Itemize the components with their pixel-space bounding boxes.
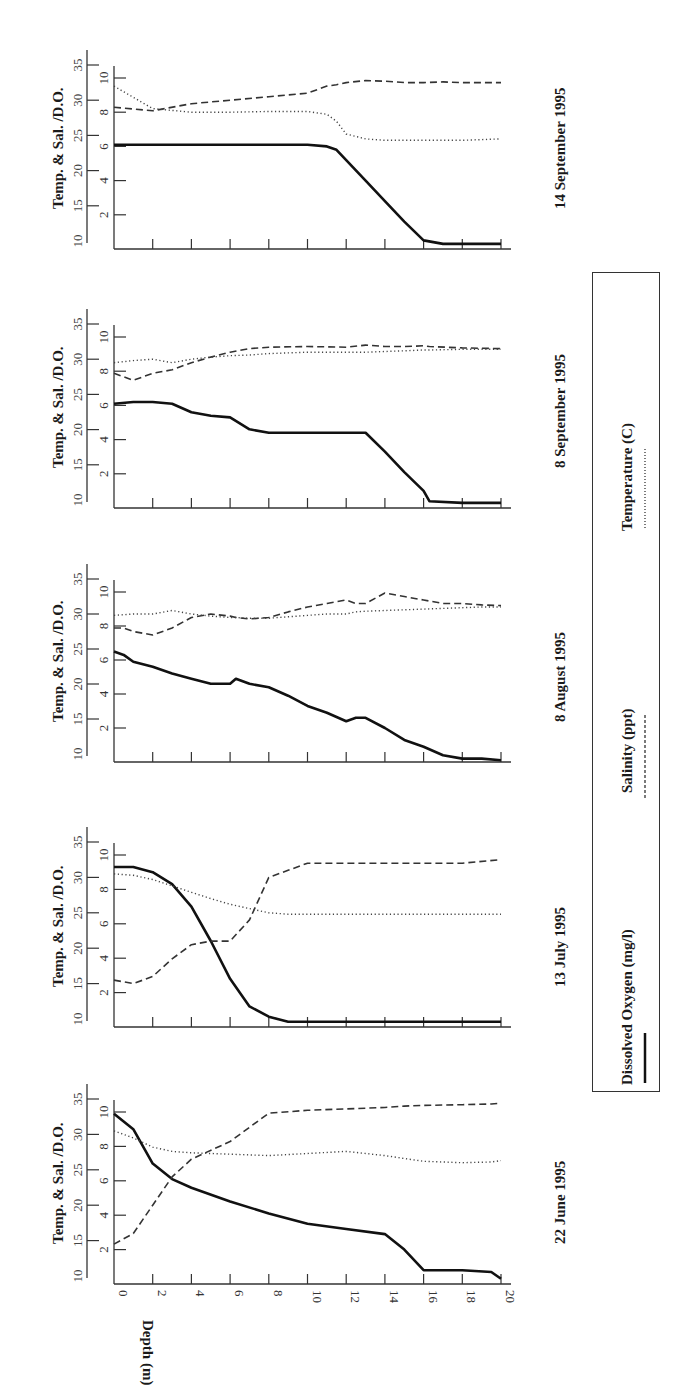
do-line (114, 402, 501, 503)
do-line (114, 145, 501, 244)
legend: Dissolved Oxygen (mg/l) Salinity (ppt) T… (592, 272, 660, 1092)
svg-text:35: 35 (70, 836, 85, 849)
y-axis-title: Temp. & Sal. /D.O. (50, 1122, 67, 1244)
svg-text:35: 35 (70, 59, 85, 72)
svg-text:30: 30 (70, 353, 85, 366)
panel-date-label: 13 July 1995 (552, 907, 569, 987)
svg-text:10: 10 (70, 1270, 85, 1283)
do-line (114, 652, 501, 761)
svg-text:15: 15 (70, 458, 85, 471)
svg-text:4: 4 (96, 177, 111, 184)
depth-tick-label: 10 (310, 1290, 325, 1303)
svg-text:4: 4 (96, 436, 111, 443)
svg-text:35: 35 (70, 318, 85, 331)
temperature-line (114, 86, 501, 140)
svg-text:8: 8 (96, 1143, 111, 1150)
svg-text:10: 10 (70, 235, 85, 248)
depth-tick-label: 12 (348, 1290, 363, 1303)
panel-date-label: 8 September 1995 (552, 354, 569, 468)
svg-text:35: 35 (70, 1093, 85, 1106)
depth-tick-label: 14 (387, 1290, 402, 1304)
temperature-line (114, 349, 501, 362)
svg-text:4: 4 (96, 954, 111, 961)
depth-tick-label: 4 (193, 1290, 208, 1297)
svg-text:2: 2 (96, 1246, 111, 1253)
legend-label-salinity: Salinity (ppt) (619, 708, 636, 793)
svg-text:2: 2 (96, 725, 111, 732)
svg-text:30: 30 (70, 608, 85, 621)
svg-text:20: 20 (70, 678, 85, 691)
depth-tick-label: 16 (426, 1290, 441, 1304)
svg-text:10: 10 (96, 849, 111, 862)
panel-1: 246810101520253035 (70, 1084, 511, 1284)
svg-text:25: 25 (70, 1163, 85, 1176)
do-line (114, 867, 501, 1022)
panel-date-label: 8 August 1995 (552, 632, 569, 722)
svg-text:15: 15 (70, 977, 85, 990)
salinity-line (114, 81, 501, 111)
svg-text:8: 8 (96, 109, 111, 116)
svg-text:20: 20 (70, 1199, 85, 1212)
svg-text:4: 4 (96, 690, 111, 697)
svg-text:4: 4 (96, 1211, 111, 1218)
panel-4: 246810101520253035 (70, 309, 511, 508)
svg-text:6: 6 (96, 143, 111, 150)
svg-text:25: 25 (70, 129, 85, 142)
panel-date-label: 14 September 1995 (552, 88, 569, 209)
svg-text:25: 25 (70, 643, 85, 656)
svg-text:10: 10 (70, 1013, 85, 1026)
panel-3: 246810101520253035 (70, 564, 511, 762)
svg-text:25: 25 (70, 906, 85, 919)
svg-text:6: 6 (96, 920, 111, 927)
temperature-line (114, 607, 501, 618)
panel-2: 246810101520253035 (70, 827, 511, 1027)
temperature-line (114, 1131, 501, 1163)
panel-5: 246810101520253035 (70, 50, 511, 249)
temperature-line (114, 874, 501, 914)
y-axis-title: Temp. & Sal. /D.O. (50, 346, 67, 468)
svg-text:2: 2 (96, 212, 111, 219)
svg-text:8: 8 (96, 368, 111, 375)
svg-text:20: 20 (70, 423, 85, 436)
svg-text:10: 10 (70, 494, 85, 507)
do-line (114, 1114, 501, 1279)
depth-tick-label: 6 (232, 1290, 247, 1297)
depth-tick-label: 2 (155, 1290, 170, 1297)
svg-text:15: 15 (70, 1234, 85, 1247)
svg-text:10: 10 (96, 331, 111, 344)
depth-tick-label: 18 (464, 1290, 479, 1303)
svg-text:10: 10 (96, 586, 111, 599)
depth-tick-label: 0 (116, 1290, 131, 1297)
svg-text:30: 30 (70, 871, 85, 884)
depth-tick-label: 20 (503, 1290, 518, 1303)
legend-label-do: Dissolved Oxygen (mg/l) (619, 929, 636, 1085)
panel-date-label: 22 June 1995 (552, 1161, 569, 1244)
svg-text:15: 15 (70, 199, 85, 212)
salinity-line (114, 345, 501, 380)
svg-text:10: 10 (70, 748, 85, 761)
depth-tick-label: 8 (271, 1290, 286, 1297)
svg-text:6: 6 (96, 402, 111, 409)
depth-axis-label: Depth (m) (139, 1320, 156, 1385)
svg-text:2: 2 (96, 989, 111, 996)
svg-text:20: 20 (70, 164, 85, 177)
svg-text:20: 20 (70, 942, 85, 955)
salinity-line (114, 593, 501, 635)
svg-text:6: 6 (96, 656, 111, 663)
legend-label-temperature: Temperature (C) (619, 423, 636, 531)
y-axis-title: Temp. & Sal. /D.O. (50, 87, 67, 209)
svg-text:30: 30 (70, 94, 85, 107)
y-axis-title: Temp. & Sal. /D.O. (50, 600, 67, 722)
svg-text:25: 25 (70, 388, 85, 401)
svg-text:8: 8 (96, 623, 111, 630)
salinity-line (114, 860, 501, 984)
svg-text:30: 30 (70, 1128, 85, 1141)
svg-text:35: 35 (70, 573, 85, 586)
svg-text:10: 10 (96, 72, 111, 85)
svg-text:2: 2 (96, 471, 111, 478)
svg-text:6: 6 (96, 1177, 111, 1184)
svg-text:8: 8 (96, 886, 111, 893)
svg-text:10: 10 (96, 1106, 111, 1119)
y-axis-title: Temp. & Sal. /D.O. (50, 865, 67, 987)
svg-text:15: 15 (70, 713, 85, 726)
